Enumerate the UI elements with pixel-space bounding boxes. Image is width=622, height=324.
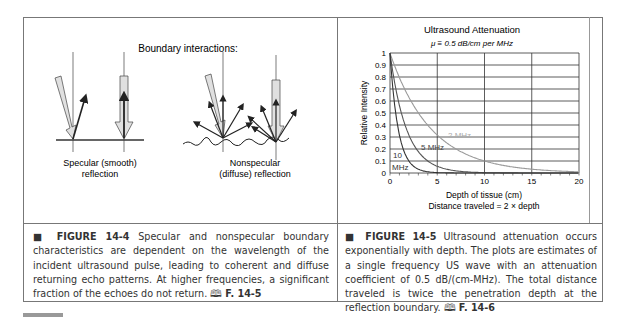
svg-text:0.1: 0.1 bbox=[375, 157, 387, 166]
figure-14-5-caption: ■ FIGURE 14-5 Ultrasound attenuation occ… bbox=[345, 230, 597, 316]
open-book-icon: 🕮 bbox=[210, 288, 222, 299]
specular-label-2: reflection bbox=[82, 169, 119, 179]
svg-text:0.5: 0.5 bbox=[375, 109, 387, 118]
figure-14-4-caption: ■ FIGURE 14-4 Specular and nonspecular b… bbox=[33, 230, 329, 301]
label-mhz: MHz bbox=[392, 163, 408, 172]
svg-text:0.6: 0.6 bbox=[375, 97, 387, 106]
svg-text:5: 5 bbox=[435, 177, 440, 186]
caption-ref[interactable]: F. 14-5 bbox=[225, 288, 261, 299]
chart-title: Ultrasound Attenuation bbox=[424, 24, 520, 35]
svg-text:0: 0 bbox=[388, 177, 393, 186]
nonspecular-diagram: Nonspecular (diffuse) reflection bbox=[183, 52, 295, 179]
label-10mhz: 10 bbox=[393, 151, 402, 160]
specular-diagram: Specular (smooth) reflection bbox=[55, 52, 144, 179]
caption-label: FIGURE 14-4 bbox=[57, 231, 130, 242]
label-5mhz: 5 MHz bbox=[421, 143, 444, 152]
caption-ref[interactable]: F. 14-6 bbox=[459, 302, 495, 313]
svg-text:15: 15 bbox=[527, 177, 536, 186]
svg-text:0.9: 0.9 bbox=[375, 61, 387, 70]
caption-label: FIGURE 14-5 bbox=[365, 231, 436, 242]
svg-text:0.7: 0.7 bbox=[375, 85, 387, 94]
svg-text:1: 1 bbox=[382, 49, 387, 58]
x-axis-label: Depth of tissue (cm) bbox=[446, 190, 522, 200]
svg-text:20: 20 bbox=[575, 177, 584, 186]
svg-text:0.4: 0.4 bbox=[375, 121, 387, 130]
svg-text:10: 10 bbox=[480, 177, 489, 186]
open-book-icon: 🕮 bbox=[444, 302, 456, 313]
boundary-interactions-diagram: Boundary interactions: Specular (smooth)… bbox=[55, 43, 295, 179]
nonspecular-label-2: (diffuse) reflection bbox=[219, 169, 290, 179]
svg-text:0: 0 bbox=[382, 169, 387, 178]
svg-text:0.2: 0.2 bbox=[375, 145, 387, 154]
svg-text:0.8: 0.8 bbox=[375, 73, 387, 82]
specular-label: Specular (smooth) bbox=[63, 158, 137, 168]
chart-subtitle: μ ≡ 0.5 dB/cm per MHz bbox=[430, 39, 513, 48]
nonspecular-label: Nonspecular bbox=[230, 158, 281, 168]
y-axis-label: Relative Intensity bbox=[359, 80, 369, 145]
svg-text:0.3: 0.3 bbox=[375, 133, 387, 142]
label-2mhz: 2 MHz bbox=[448, 131, 471, 140]
attenuation-chart: Ultrasound Attenuation μ ≡ 0.5 dB/cm per… bbox=[359, 24, 584, 211]
x-axis-label-2: Distance traveled = 2 × depth bbox=[428, 201, 539, 211]
